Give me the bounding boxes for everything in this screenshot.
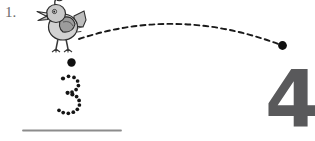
trace-dot bbox=[75, 107, 79, 111]
trace-dot bbox=[66, 91, 70, 95]
trace-start-dot bbox=[67, 58, 75, 66]
bird-feet bbox=[52, 49, 72, 53]
worksheet-page: 1. bbox=[0, 0, 315, 141]
trace-dot bbox=[75, 95, 79, 99]
trace-dot bbox=[67, 74, 71, 78]
trace-dot bbox=[77, 99, 81, 103]
trace-dot bbox=[74, 88, 78, 92]
dotted-numeral-three bbox=[57, 74, 81, 115]
dashed-flight-arc bbox=[79, 24, 281, 45]
bird-leg-right bbox=[66, 39, 68, 49]
trace-dot bbox=[61, 76, 65, 80]
trace-dot bbox=[61, 111, 65, 115]
cartoon-bird-icon bbox=[37, 0, 86, 53]
trace-dot bbox=[78, 103, 82, 107]
trace-dot bbox=[66, 111, 70, 115]
trace-dot bbox=[70, 92, 74, 96]
trace-dot bbox=[76, 79, 80, 83]
trace-dot bbox=[77, 84, 81, 88]
bird-leg-left bbox=[56, 39, 58, 49]
bird-beak-lower bbox=[38, 16, 48, 21]
bird-crest-tuft bbox=[56, 0, 63, 1]
trace-dot bbox=[71, 110, 75, 114]
bird-beak-upper bbox=[37, 12, 47, 17]
bird-eye-pupil bbox=[53, 11, 55, 13]
target-numeral: 4 bbox=[265, 60, 315, 138]
trace-dot bbox=[57, 108, 61, 112]
flight-path-end-dot bbox=[278, 41, 287, 50]
trace-dot bbox=[72, 76, 76, 80]
